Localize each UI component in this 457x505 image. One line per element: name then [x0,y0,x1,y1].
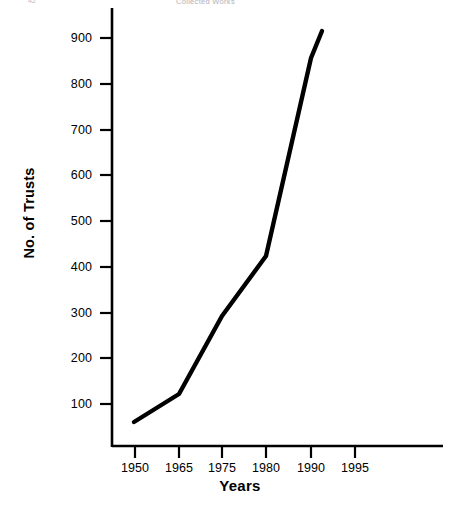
x-axis-ticks [135,446,355,458]
y-axis-title: No. of Trusts [21,143,37,283]
y-tick-label-300: 300 [48,307,92,320]
y-tick-label-700: 700 [48,124,92,137]
y-tick-label-500: 500 [48,215,92,228]
chart-plot-area [0,0,457,505]
x-tick-label-1965: 1965 [156,462,202,475]
y-tick-label-400: 400 [48,261,92,274]
y-tick-label-800: 800 [48,78,92,91]
x-axis-title: Years [160,477,320,494]
line-chart: 100 200 300 400 500 600 700 800 900 1950… [0,0,457,505]
x-tick-label-1980: 1980 [243,462,289,475]
y-tick-label-600: 600 [48,169,92,182]
data-line-series-no-of-trusts [134,31,322,422]
x-tick-label-1950: 1950 [112,462,158,475]
y-tick-label-100: 100 [48,398,92,411]
y-tick-label-200: 200 [48,352,92,365]
x-tick-label-1990: 1990 [288,462,334,475]
y-axis-ticks [100,38,112,404]
y-tick-label-900: 900 [48,32,92,45]
x-tick-label-1975: 1975 [199,462,245,475]
x-tick-label-1995: 1995 [332,462,378,475]
